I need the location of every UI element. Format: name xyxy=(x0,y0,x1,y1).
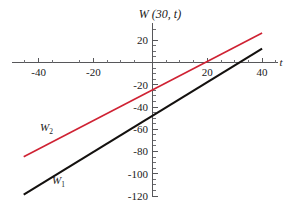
chart-figure: W (30, t) -40 -20 20 40 t xyxy=(0,0,290,204)
y-tick-label-minus-20: -20 xyxy=(133,79,148,91)
x-tick-label-plus-20: 20 xyxy=(202,66,214,78)
x-tick-label-plus-40: 40 xyxy=(257,66,269,78)
y-tick-label-minus-40: -40 xyxy=(133,101,148,113)
chart-title: W (30, t) xyxy=(139,7,181,21)
y-tick-label-20: 20 xyxy=(137,34,149,46)
y-tick-label-minus-60: -60 xyxy=(133,123,148,135)
x-tick-label-minus-40: -40 xyxy=(31,66,46,78)
x-tick-label-minus-20: -20 xyxy=(86,66,101,78)
y-tick-label-minus-80: -80 xyxy=(133,145,148,157)
y-tick-label-minus-100: -100 xyxy=(128,168,149,180)
series-label-w1-sub: 1 xyxy=(61,180,65,189)
series-label-w2-sub: 2 xyxy=(49,127,53,136)
y-tick-label-minus-120: -120 xyxy=(128,190,149,202)
